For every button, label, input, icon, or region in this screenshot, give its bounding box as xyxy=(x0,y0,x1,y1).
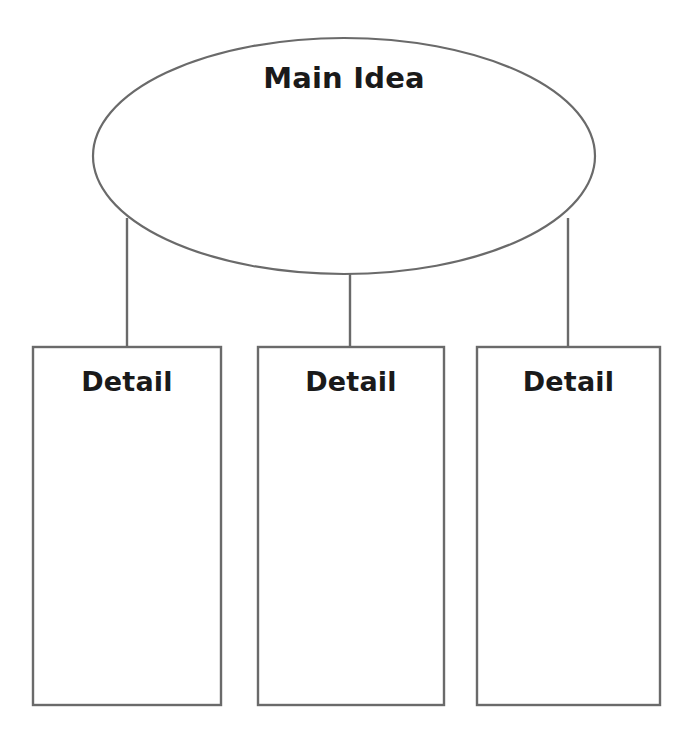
detail-label-3: Detail xyxy=(477,368,660,395)
detail-label-1: Detail xyxy=(33,368,221,395)
detail-box-1[interactable] xyxy=(33,347,221,705)
main-idea-label: Main Idea xyxy=(93,64,595,93)
detail-label-2: Detail xyxy=(258,368,444,395)
graphic-organizer-canvas: Main Idea Detail Detail Detail xyxy=(0,0,698,748)
detail-box-3[interactable] xyxy=(477,347,660,705)
detail-box-2[interactable] xyxy=(258,347,444,705)
